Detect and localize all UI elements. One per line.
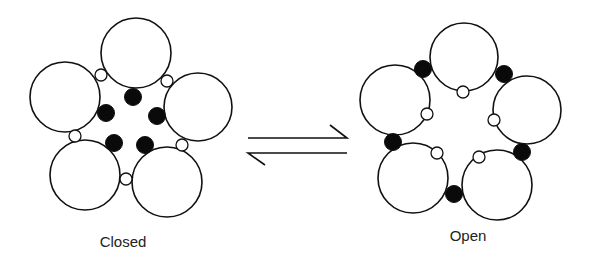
open-label: Open xyxy=(450,227,487,244)
open-site-circle xyxy=(176,139,188,151)
filled-site-dot xyxy=(415,61,432,78)
open-site-circle xyxy=(120,173,132,185)
reverse-arrow-icon xyxy=(248,153,347,165)
filled-site-dot xyxy=(149,108,166,125)
open-site-circle xyxy=(473,151,485,163)
channel-diagram: Closed Open xyxy=(0,0,590,259)
subunit-circle xyxy=(101,18,171,88)
open-site-circle xyxy=(457,86,469,98)
filled-site-dot xyxy=(385,134,402,151)
open-site-circle xyxy=(69,130,81,142)
closed-label: Closed xyxy=(100,233,147,250)
open-site-circle xyxy=(421,108,433,120)
subunit-circle xyxy=(493,76,561,144)
filled-site-dot xyxy=(137,137,154,154)
filled-site-dot xyxy=(496,66,513,83)
subunit-circle xyxy=(30,62,100,132)
subunit-circle xyxy=(132,147,202,217)
subunit-circle xyxy=(430,23,498,91)
filled-site-dot xyxy=(514,144,531,161)
open-site-circle xyxy=(95,69,107,81)
filled-site-dot xyxy=(98,105,115,122)
open-site-circle xyxy=(161,75,173,87)
filled-site-dot xyxy=(106,135,123,152)
filled-site-dot xyxy=(446,186,463,203)
open-state xyxy=(360,23,561,220)
closed-state xyxy=(30,18,232,217)
forward-arrow-icon xyxy=(248,125,347,138)
equilibrium-arrow xyxy=(248,125,347,165)
open-site-circle xyxy=(431,147,443,159)
subunit-circle xyxy=(164,73,232,141)
filled-site-dot xyxy=(125,89,142,106)
open-site-circle xyxy=(488,114,500,126)
